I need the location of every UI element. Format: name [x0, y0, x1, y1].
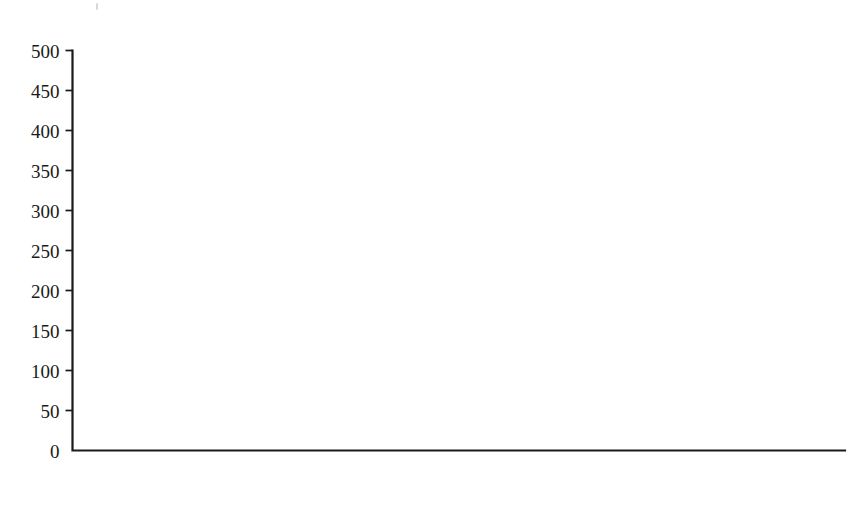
y-tick-label: 350	[31, 161, 60, 182]
y-tick-label: 50	[41, 401, 60, 422]
y-tick-label: 400	[31, 121, 60, 142]
chart-canvas: 050100150200250300350400450500	[0, 0, 860, 530]
y-tick-label: 450	[31, 81, 60, 102]
axis-lines	[73, 51, 846, 451]
y-tick-label: 500	[31, 41, 60, 62]
y-tick-label: 150	[31, 321, 60, 342]
y-axis-tick-labels: 050100150200250300350400450500	[31, 41, 60, 462]
y-tick-label: 0	[50, 441, 60, 462]
scan-artifact-speck	[96, 3, 98, 10]
y-tick-label: 200	[31, 281, 60, 302]
y-tick-label: 100	[31, 361, 60, 382]
y-tick-label: 300	[31, 201, 60, 222]
y-tick-label: 250	[31, 241, 60, 262]
line-chart: 050100150200250300350400450500	[0, 0, 860, 530]
